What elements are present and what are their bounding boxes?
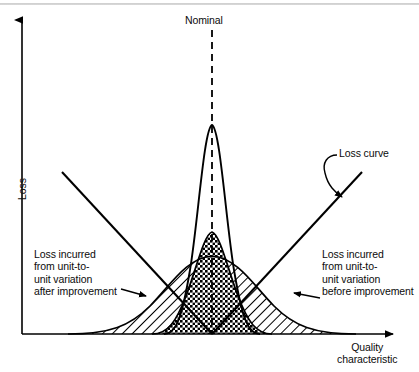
x-axis-label-line2: characteristic: [337, 353, 397, 365]
loss-curve-label: Loss curve: [339, 147, 389, 159]
x-axis-label-line1: Quality: [351, 341, 383, 353]
loss-function-plot: [0, 0, 419, 372]
loss-curve-leader-arrow: [324, 155, 342, 197]
y-axis-label: Loss: [16, 178, 28, 200]
x-axis-label: Qualitycharacteristic: [337, 341, 397, 366]
after-improvement-leader-line: [121, 289, 146, 296]
annotation-after-improvement: Loss incurred from unit-to- unit variati…: [34, 248, 117, 298]
nominal-label: Nominal: [185, 14, 223, 26]
annotation-before-improvement: Loss incurred from unit-to- unit variati…: [322, 248, 414, 298]
before-improvement-leader-line: [294, 293, 320, 298]
taguchi-loss-figure: Loss Nominal Loss curve Loss incurred fr…: [0, 0, 419, 372]
